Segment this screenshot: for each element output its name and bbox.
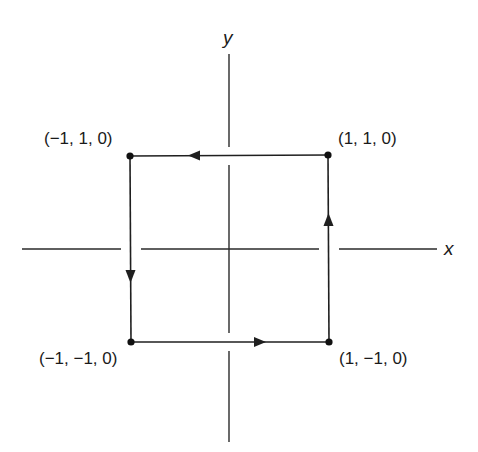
- label-top-left: (−1, 1, 0): [44, 129, 113, 148]
- label-bottom-right: (1, −1, 0): [339, 349, 408, 368]
- arrow-left-icon: [188, 151, 200, 161]
- square-path-diagram: x y (−1, 1, 0) (1, 1, 0) (−1, −1, 0) (1,…: [0, 0, 478, 452]
- label-bottom-left: (−1, −1, 0): [39, 349, 117, 368]
- vertex-bottom-right: [325, 338, 332, 345]
- arrow-down-icon: [126, 270, 136, 283]
- x-axis-label: x: [443, 238, 455, 259]
- arrow-right-icon: [254, 337, 266, 347]
- vertex-bottom-left: [127, 338, 134, 345]
- vertex-top-right: [324, 151, 331, 158]
- vertex-top-left: [126, 152, 133, 159]
- y-axis-label: y: [221, 27, 234, 48]
- arrow-up-icon: [324, 213, 334, 226]
- label-top-right: (1, 1, 0): [338, 129, 397, 148]
